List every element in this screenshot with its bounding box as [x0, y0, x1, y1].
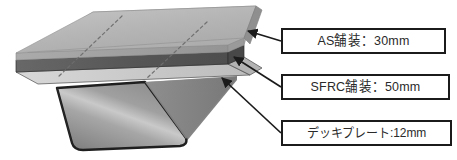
callout-label-as-pavement: AS舗装：30mm — [317, 34, 409, 47]
callout-box-as-pavement: AS舗装：30mm — [281, 28, 446, 54]
callout-box-sfrc-pavement: SFRC舗装：50mm — [281, 74, 450, 100]
callout-box-deck-plate: デッキプレート:12mm — [281, 120, 452, 146]
figure-canvas: AS舗装：30mm SFRC舗装：50mm デッキプレート:12mm — [0, 0, 457, 160]
u-rib-group — [57, 76, 237, 150]
leader-line-deck — [222, 78, 281, 133]
callout-label-deck-plate: デッキプレート:12mm — [307, 127, 426, 140]
callout-label-sfrc-pavement: SFRC舗装：50mm — [311, 80, 421, 93]
